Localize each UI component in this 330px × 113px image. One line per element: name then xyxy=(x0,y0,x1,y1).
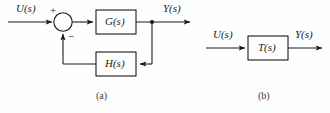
caption-b: (b) xyxy=(258,91,270,101)
block-g-label: G(s) xyxy=(105,16,125,27)
block-t-label: T(s) xyxy=(258,42,276,53)
input-label-b: U(s) xyxy=(213,29,233,40)
figure-canvas: U(s) + − G(s) H(s) Y(s) (a) U(s) T(s) Y(… xyxy=(0,0,330,113)
summing-junction-circle xyxy=(54,13,72,31)
caption-a: (a) xyxy=(96,91,107,101)
block-diagram-graphics xyxy=(0,0,330,113)
summing-minus-sign: − xyxy=(68,31,74,42)
output-label-b: Y(s) xyxy=(295,29,313,40)
output-label-a: Y(s) xyxy=(163,3,181,14)
input-label-a: U(s) xyxy=(16,3,36,14)
block-h-label: H(s) xyxy=(105,58,125,69)
summing-plus-sign: + xyxy=(50,5,56,16)
